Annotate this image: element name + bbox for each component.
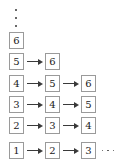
ellipsis-dot — [15, 25, 17, 27]
arrow-right-icon — [60, 75, 81, 92]
arrow-right-icon — [24, 142, 45, 159]
value-box: 4 — [9, 75, 24, 92]
value-box: 2 — [45, 142, 60, 159]
diagram-row: 2 3 4 — [9, 116, 96, 135]
value-box: 3 — [45, 117, 60, 134]
ellipsis-dot — [107, 150, 109, 152]
arrow-right-icon — [24, 53, 45, 70]
ellipsis-dot — [102, 150, 104, 152]
diagram-row: 3 4 5 — [9, 95, 96, 114]
arrow-right-icon — [24, 96, 45, 113]
arrow-right-icon — [60, 142, 81, 159]
value-box: 6 — [9, 32, 24, 49]
ellipsis-dot — [15, 9, 17, 11]
value-box: 5 — [45, 75, 60, 92]
staircase-diagram: 6 5 6 4 5 6 3 4 5 2 3 4 1 2 3 — [0, 0, 126, 167]
horizontal-ellipsis-icon — [96, 142, 116, 159]
arrow-right-icon — [60, 117, 81, 134]
arrow-right-icon — [60, 96, 81, 113]
vertical-ellipsis-icon — [13, 9, 19, 27]
arrow-right-icon — [24, 75, 45, 92]
value-box: 5 — [81, 96, 96, 113]
value-box: 3 — [9, 96, 24, 113]
diagram-row: 6 — [9, 31, 24, 50]
diagram-row: 4 5 6 — [9, 74, 96, 93]
value-box: 6 — [45, 53, 60, 70]
ellipsis-dot — [15, 17, 17, 19]
value-box: 5 — [9, 53, 24, 70]
arrow-right-icon — [24, 117, 45, 134]
value-box: 3 — [81, 142, 96, 159]
diagram-row: 1 2 3 — [9, 141, 116, 160]
value-box: 1 — [9, 142, 24, 159]
ellipsis-dot — [113, 150, 115, 152]
value-box: 4 — [81, 117, 96, 134]
value-box: 6 — [81, 75, 96, 92]
diagram-row: 5 6 — [9, 52, 60, 71]
value-box: 4 — [45, 96, 60, 113]
value-box: 2 — [9, 117, 24, 134]
